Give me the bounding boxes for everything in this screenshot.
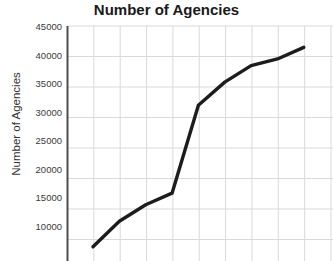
data-series-line	[93, 47, 304, 246]
chart-figure: Number of Agencies Number of Agencies 45…	[0, 0, 333, 261]
horizontal-gridlines	[68, 26, 333, 240]
vertical-gridlines	[94, 26, 331, 261]
plot-area	[0, 0, 333, 261]
